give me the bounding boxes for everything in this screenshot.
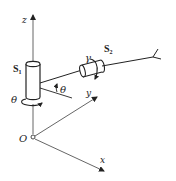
arm-link <box>40 70 82 83</box>
x-axis <box>35 139 104 171</box>
y-axis-label: y <box>85 88 92 98</box>
joint-s1-label: S1 <box>13 63 22 75</box>
joint-s2-cylinder <box>79 60 105 77</box>
joint-s1-cylinder <box>26 61 40 99</box>
z-axis-label: z <box>21 15 27 25</box>
end-link <box>102 57 153 66</box>
joint-s1-angle-label: θ <box>11 94 17 105</box>
joint-s2-label: S2 <box>104 43 113 55</box>
x-axis-label: x <box>100 155 105 165</box>
end-effector-gripper-icon <box>153 49 161 59</box>
origin-label: O <box>19 133 27 144</box>
kinematic-diagram: z y x O S1 θ θ γ S2 <box>0 0 176 181</box>
joint-s2-angle-label: γ <box>85 52 91 63</box>
y-axis <box>35 97 97 136</box>
origin-point <box>31 135 35 139</box>
arm-angle-label: θ <box>60 84 66 95</box>
arm-angle-arrow-icon <box>56 84 57 92</box>
